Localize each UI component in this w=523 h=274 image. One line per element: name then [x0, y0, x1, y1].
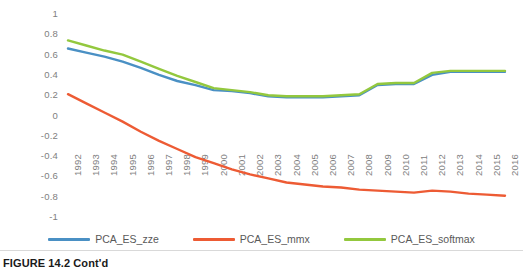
legend-label: PCA_ES_softmax: [391, 234, 475, 245]
legend-item[interactable]: PCA_ES_softmax: [344, 234, 475, 245]
legend-label: PCA_ES_zze: [95, 234, 159, 245]
legend-color-swatch: [193, 238, 235, 241]
legend-color-swatch: [48, 238, 90, 241]
caption-continued: Cont'd: [73, 257, 108, 269]
legend-color-swatch: [344, 238, 386, 241]
legend-item[interactable]: PCA_ES_mmx: [193, 234, 310, 245]
series-line-PCA_ES_softmax: [68, 40, 505, 96]
series-line-PCA_ES_mmx: [68, 94, 505, 196]
legend-label: PCA_ES_mmx: [240, 234, 310, 245]
figure-caption: FIGURE 14.2 Cont'd: [0, 250, 523, 274]
chart-plot-area: 10.80.60.40.20-0.2-0.4-0.6-0.8-1 1992199…: [0, 0, 523, 232]
chart-lines: [0, 0, 523, 232]
caption-divider: [0, 250, 523, 251]
legend-item[interactable]: PCA_ES_zze: [48, 234, 159, 245]
caption-text: FIGURE 14.2 Cont'd: [3, 257, 108, 269]
figure-container: 10.80.60.40.20-0.2-0.4-0.6-0.8-1 1992199…: [0, 0, 523, 274]
caption-figure-label: FIGURE 14.2: [3, 257, 70, 269]
chart-legend: PCA_ES_zzePCA_ES_mmxPCA_ES_softmax: [0, 228, 523, 250]
